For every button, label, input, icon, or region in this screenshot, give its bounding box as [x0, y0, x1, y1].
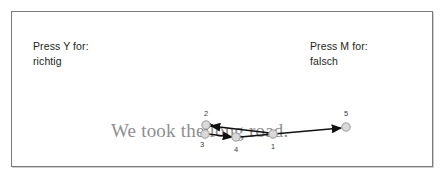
fixation-marker-2 [202, 121, 210, 129]
fixation-markers [201, 121, 350, 141]
fixation-label-1: 1 [271, 142, 275, 151]
saccade-arrow-4-to-5 [240, 128, 341, 137]
fixation-label-3: 3 [200, 140, 204, 149]
stimulus-frame: Press Y for: richtig Press M for: falsch… [11, 11, 433, 167]
fixation-label-2: 2 [204, 109, 208, 118]
saccade-arrow-3-to-4 [208, 134, 232, 137]
fixation-marker-4 [232, 133, 240, 141]
fixation-label-4: 4 [234, 145, 238, 154]
fixation-marker-5 [342, 123, 350, 131]
fixation-marker-1 [269, 130, 277, 138]
fixation-marker-3 [201, 130, 209, 138]
fixation-label-5: 5 [344, 109, 348, 118]
saccade-arrow-1-to-2 [211, 126, 270, 133]
scanpath-overlay: 12345 [12, 12, 434, 168]
